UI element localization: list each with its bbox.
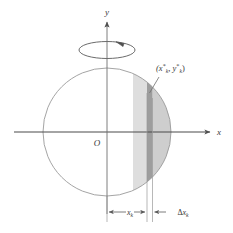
dimension-label-xk-sub: k xyxy=(131,212,134,218)
y-axis-label: y xyxy=(104,7,109,17)
figure-container: x y O (x*k, y*k) xk Δxk xyxy=(0,0,233,233)
sample-point-label: (x*k, y*k) xyxy=(156,62,185,75)
dimension-label-xk: xk xyxy=(126,208,134,218)
revolution-diagram-svg: x y O (x*k, y*k) xk Δxk xyxy=(0,0,233,233)
origin-label: O xyxy=(94,138,101,148)
point-label-close: ) xyxy=(182,63,185,73)
x-axis-label: x xyxy=(216,127,221,137)
dimension-label-dxk: Δxk xyxy=(177,208,189,218)
dimension-label-dxk-sub: k xyxy=(186,212,189,218)
